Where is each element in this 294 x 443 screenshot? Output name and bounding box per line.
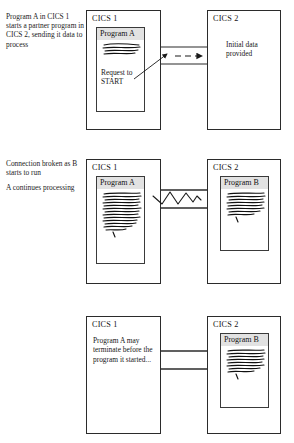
cics2-label: CICS 2 (213, 163, 239, 173)
initial-data-annotation-text: Initial data provided (226, 40, 258, 58)
caption-paragraph: A continues processing (6, 183, 84, 192)
program-a-box: Program A Request to START (96, 27, 145, 112)
program-a-note: Request to START (101, 68, 141, 87)
program-b-box: Program B (220, 333, 269, 408)
initial-data-annotation: Initial data provided (226, 40, 282, 59)
caption-paragraph: Connection broken as B starts to run (6, 159, 84, 177)
cics1-box-panel-terminate: CICS 1 Program A may terminate before th… (86, 316, 161, 434)
panel-broken-caption: Connection broken as B starts to run A c… (6, 159, 84, 193)
code-scribble-icon (224, 191, 268, 225)
cics2-box-panel-broken: CICS 2 Program B (207, 159, 281, 284)
cics2-box-panel-start: CICS 2 Initial data provided (207, 10, 281, 130)
program-b-label: Program B (221, 334, 268, 346)
cics2-label: CICS 2 (213, 14, 239, 24)
program-a-label: Program A (97, 177, 144, 189)
cics1-box-panel-broken: CICS 1 Program A (86, 159, 161, 284)
program-a-label: Program A (97, 28, 144, 40)
cics1-box-panel-start: CICS 1 Program A Request to START (86, 10, 161, 130)
code-scribble-icon (100, 191, 144, 239)
panel-broken: Connection broken as B starts to run A c… (0, 150, 294, 310)
program-b-box: Program B (220, 176, 269, 251)
cics2-label: CICS 2 (213, 320, 239, 330)
panel-start-caption: Program A in CICS 1 starts a partner pro… (6, 12, 84, 49)
program-b-label: Program B (221, 177, 268, 189)
cics1-label: CICS 1 (92, 320, 118, 330)
panel-terminate: CICS 1 Program A may terminate before th… (0, 310, 294, 443)
code-scribble-icon (101, 42, 143, 58)
program-a-box: Program A (96, 176, 145, 264)
cics1-label: CICS 1 (92, 163, 118, 173)
cics2-box-panel-terminate: CICS 2 Program B (207, 316, 281, 434)
caption-paragraph: Program A in CICS 1 starts a partner pro… (6, 12, 84, 49)
terminate-note: Program A may terminate before the progr… (93, 336, 157, 364)
code-scribble-icon (224, 348, 268, 382)
panel-start: Program A in CICS 1 starts a partner pro… (0, 0, 294, 150)
cics1-label: CICS 1 (92, 14, 118, 24)
